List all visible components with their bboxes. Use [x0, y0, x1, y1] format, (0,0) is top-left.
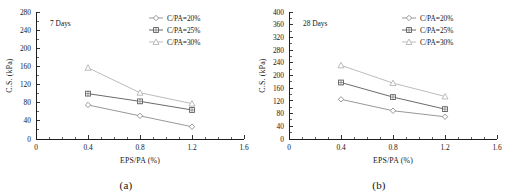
y-tick-label: 360 [273, 20, 284, 29]
data-point-square [339, 80, 344, 85]
y-axis-title: C.S. (kPa) [5, 58, 14, 92]
series-line-cpa30 [88, 68, 192, 104]
x-tick-label: 0 [287, 143, 291, 152]
data-point-square [86, 91, 91, 96]
legend-label: C/PA=30% [420, 38, 453, 47]
chart-a-plot: 0408012016020024028000.40.81.21.6EPS/PA … [0, 0, 252, 170]
y-tick-label: 40 [277, 122, 285, 131]
y-axis-title: C.S. (kPa) [258, 58, 267, 92]
chart-panel-b: 0408012016020024028032036040000.40.81.21… [253, 0, 505, 194]
data-point-diamond [338, 97, 343, 102]
legend-label: C/PA=25% [167, 26, 200, 35]
chart-b-plot: 0408012016020024028032036040000.40.81.21… [253, 0, 505, 170]
data-point-diamond [406, 15, 411, 20]
legend-marker-triangle [402, 39, 416, 44]
x-tick-label: 0 [34, 143, 38, 152]
y-tick-label: 320 [273, 33, 284, 42]
legend-marker-diamond [402, 15, 416, 20]
x-tick-label: 0.8 [388, 143, 398, 152]
legend-label: C/PA=20% [167, 14, 200, 23]
legend-marker-square [149, 28, 163, 33]
legend-label: C/PA=25% [420, 26, 453, 35]
y-tick-label: 400 [273, 8, 284, 17]
chart-panel-a: 0408012016020024028000.40.81.21.6EPS/PA … [0, 0, 252, 194]
x-tick-label: 0.4 [336, 143, 346, 152]
data-point-diamond [85, 102, 90, 107]
data-point-triangle [137, 90, 143, 95]
data-point-square [154, 28, 159, 33]
y-tick-label: 120 [273, 97, 284, 106]
data-point-triangle [85, 65, 91, 70]
data-point-diamond [189, 124, 194, 129]
data-point-diamond [390, 108, 395, 113]
data-point-square [190, 108, 195, 113]
panel-annotation: 28 Days [303, 19, 328, 28]
y-tick-label: 280 [20, 8, 31, 17]
x-tick-label: 1.2 [187, 143, 197, 152]
y-tick-label: 200 [273, 71, 284, 80]
x-axis-title: EPS/PA (%) [120, 156, 160, 165]
data-point-square [443, 107, 448, 112]
y-tick-label: 120 [20, 80, 31, 89]
legend-marker-square [402, 28, 416, 33]
x-tick-label: 1.6 [492, 143, 502, 152]
y-tick-label: 160 [20, 62, 31, 71]
panel-b-caption: (b) [253, 179, 505, 191]
y-axis-title-group: C.S. (kPa) [258, 58, 267, 92]
x-tick-label: 0.4 [83, 143, 93, 152]
y-tick-label: 80 [24, 98, 32, 107]
legend-label: C/PA=30% [167, 38, 200, 47]
data-point-diamond [137, 113, 142, 118]
data-point-square [407, 28, 412, 33]
y-tick-label: 40 [24, 116, 32, 125]
data-point-square [138, 99, 143, 104]
legend-label: C/PA=20% [420, 14, 453, 23]
legend-marker-diamond [149, 15, 163, 20]
panel-a-caption: (a) [0, 179, 252, 191]
panel-annotation: 7 Days [50, 19, 71, 28]
data-point-diamond [442, 114, 447, 119]
y-tick-label: 0 [280, 135, 284, 144]
y-tick-label: 160 [273, 84, 284, 93]
y-tick-label: 80 [277, 109, 285, 118]
y-tick-label: 240 [273, 58, 284, 67]
x-tick-label: 1.2 [440, 143, 450, 152]
x-tick-label: 0.8 [135, 143, 145, 152]
y-tick-label: 240 [20, 26, 31, 35]
y-tick-label: 0 [27, 135, 31, 144]
y-axis-title-group: C.S. (kPa) [5, 58, 14, 92]
y-tick-label: 280 [273, 46, 284, 55]
x-tick-label: 1.6 [239, 143, 249, 152]
x-axis-title: EPS/PA (%) [373, 156, 413, 165]
y-tick-label: 200 [20, 44, 31, 53]
data-point-triangle [338, 62, 344, 67]
data-point-square [391, 95, 396, 100]
figure-container: 0408012016020024028000.40.81.21.6EPS/PA … [0, 0, 505, 194]
legend-marker-triangle [149, 39, 163, 44]
data-point-diamond [153, 15, 158, 20]
